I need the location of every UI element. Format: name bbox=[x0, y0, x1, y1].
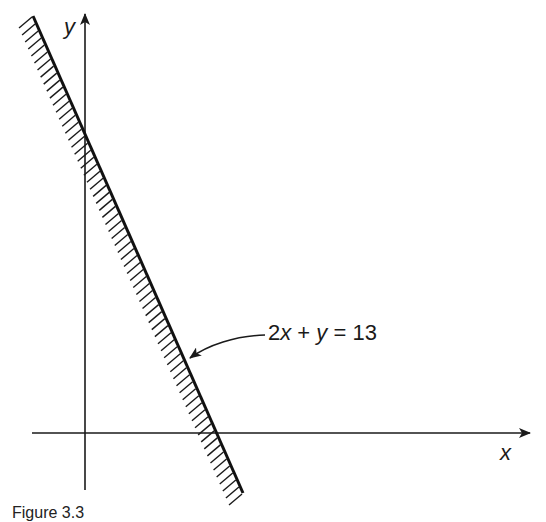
annotation-arrow bbox=[190, 335, 265, 358]
constraint-line bbox=[33, 16, 243, 493]
y-axis-label: y bbox=[64, 14, 75, 40]
x-axis-label: x bbox=[500, 440, 511, 466]
hatch-marks bbox=[19, 17, 242, 505]
figure-caption: Figure 3.3 bbox=[12, 504, 84, 522]
line-equation-label: 2x + y = 13 bbox=[268, 320, 377, 346]
